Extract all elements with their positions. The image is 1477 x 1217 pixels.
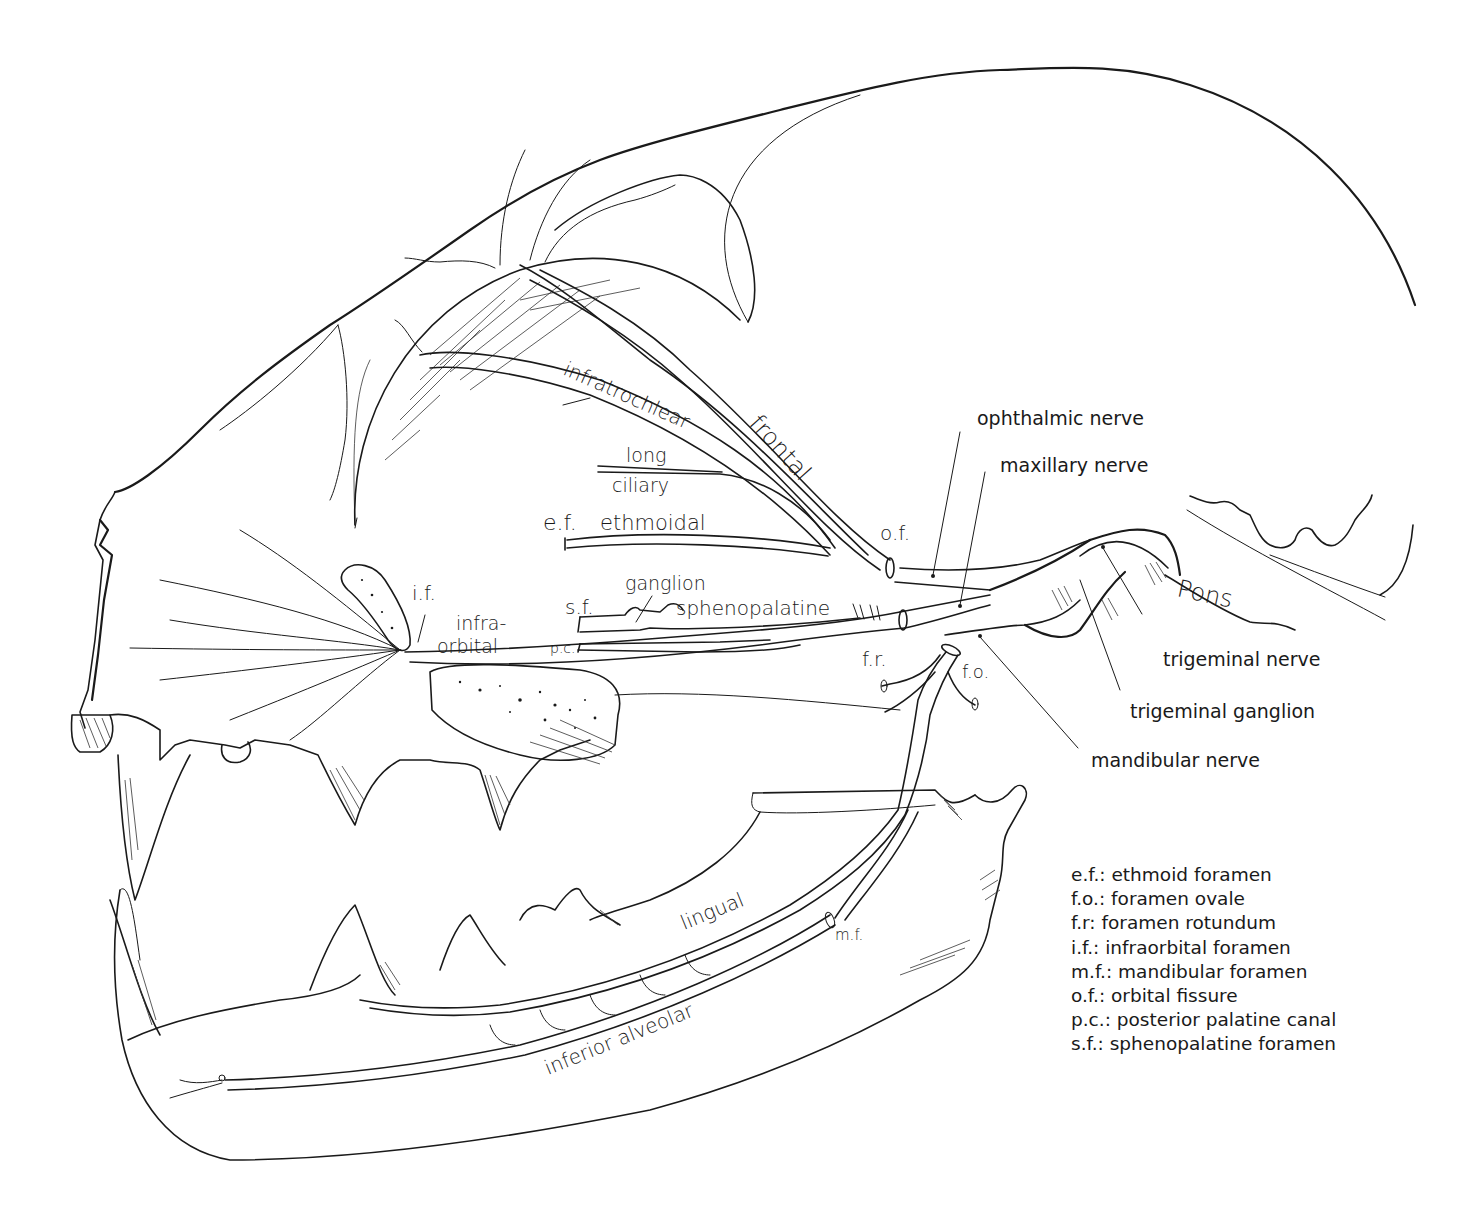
legend-text: mandibular foramen [1118,961,1307,982]
mandibular-branches [170,652,978,1098]
label-sf: s.f. [565,595,594,619]
label-pc: p.c. [550,640,575,656]
legend-text: foramen ovale [1111,888,1245,909]
legend-abbr: f.o.: [1071,888,1105,909]
abbreviation-legend: e.f.: ethmoid foramen f.o.: foramen oval… [1071,863,1336,1057]
legend-row: p.c.: posterior palatine canal [1071,1008,1336,1032]
label-frontal: frontal [744,409,817,486]
legend-row: f.r: foramen rotundum [1071,911,1336,935]
legend-row: o.f.: orbital fissure [1071,984,1336,1008]
label-ethmoidal: ethmoidal [600,511,706,535]
pons-label: Pons [1175,574,1236,613]
legend-text: foramen rotundum [1101,912,1276,933]
legend-row: m.f.: mandibular foramen [1071,960,1336,984]
legend-row: i.f.: infraorbital foramen [1071,936,1336,960]
label-orbital: orbital [437,635,498,657]
label-fr: f.r. [862,647,887,671]
callout-labels: ophthalmic nerve maxillary nerve trigemi… [977,407,1321,771]
legend-abbr: s.f.: [1071,1033,1104,1054]
label-ef: e.f. [543,510,577,535]
callout-mandibular-nerve: mandibular nerve [1091,749,1260,771]
callout-ophthalmic-nerve: ophthalmic nerve [977,407,1144,429]
label-sphenopalatine: sphenopalatine [676,596,830,620]
callout-maxillary-nerve: maxillary nerve [1000,454,1148,476]
legend-text: ethmoid foramen [1111,864,1271,885]
label-infra: infra- [456,612,506,634]
callout-trigeminal-ganglion: trigeminal ganglion [1130,700,1315,722]
label-if: i.f. [412,581,436,605]
label-mf: m.f. [835,926,863,944]
mandible [110,785,1026,1160]
legend-text: orbital fissure [1111,985,1238,1006]
infraorbital-branches [130,530,400,740]
label-ciliary: ciliary [612,474,669,496]
legend-abbr: i.f.: [1071,937,1099,958]
label-long: long [626,444,666,466]
label-fo: f.o. [962,661,989,682]
skull-outline [71,68,1415,900]
bone-stipple [459,681,597,729]
legend-row: s.f.: sphenopalatine foramen [1071,1032,1336,1056]
legend-abbr: e.f.: [1071,864,1106,885]
legend-text: posterior palatine canal [1117,1009,1337,1030]
label-infratrochlear: infratrochlear [560,357,694,434]
legend-abbr: o.f.: [1071,985,1105,1006]
callout-trigeminal-nerve: trigeminal nerve [1163,648,1321,670]
trigeminal-trunk [895,540,1125,658]
label-lingual: lingual [677,888,747,935]
legend-row: e.f.: ethmoid foramen [1071,863,1336,887]
legend-text: infraorbital foramen [1105,937,1291,958]
label-inferior-alveolar: inferior alveolar [541,998,698,1080]
legend-abbr: f.r: [1071,912,1096,933]
label-ganglion: ganglion [625,572,706,594]
legend-text: sphenopalatine foramen [1110,1033,1336,1054]
nerve-labels: infratrochlear frontal long ciliary e.f.… [412,357,989,1080]
label-of: o.f. [880,521,910,545]
legend-row: f.o.: foramen ovale [1071,887,1336,911]
legend-abbr: p.c.: [1071,1009,1111,1030]
brainstem: Pons [1080,495,1413,630]
legend-abbr: m.f.: [1071,961,1112,982]
callout-leaders [931,432,1142,748]
